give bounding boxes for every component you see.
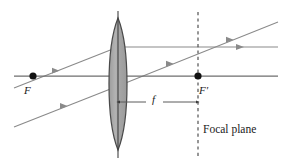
ray-upper-refracted-arrowhead-icon — [236, 44, 244, 50]
back-focus-point-marker — [194, 72, 201, 79]
ray-upper-incident-segment — [14, 47, 118, 88]
back-focus-label: F′ — [199, 85, 208, 96]
optics-ray-diagram: F F′ f Focal plane — [0, 0, 281, 165]
diagram-canvas — [0, 0, 281, 165]
back-focus-letter: F — [199, 84, 206, 96]
ray-upper-incident-arrowhead-icon — [52, 68, 60, 74]
focal-length-dimension — [120, 94, 196, 109]
ray-upper — [14, 44, 278, 88]
focal-plane-label: Focal plane — [203, 124, 256, 136]
front-focus-label: F — [24, 85, 31, 96]
ray-lower-incident-arrowhead-icon — [60, 103, 68, 109]
focal-length-label: f — [152, 94, 155, 105]
ray-lower — [14, 22, 278, 127]
front-focus-point-marker — [29, 72, 36, 79]
back-focus-prime-mark: ′ — [206, 84, 208, 96]
